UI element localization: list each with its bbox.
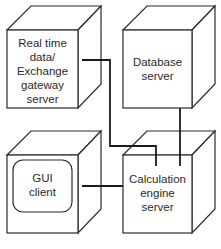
label-line: Calculation — [123, 172, 192, 186]
node-database-label: Database server — [123, 55, 192, 83]
label-line: gateway — [7, 78, 78, 92]
label-line: server — [123, 69, 192, 83]
label-line: Real time — [7, 36, 78, 50]
label-line: client — [7, 185, 78, 199]
label-line: engine — [123, 186, 192, 200]
label-line: data/ — [7, 50, 78, 64]
node-realtime-label: Real time data/ Exchange gateway server — [7, 36, 78, 106]
label-line: GUI — [7, 171, 78, 185]
label-line: server — [7, 92, 78, 106]
node-calc-label: Calculation engine server — [123, 172, 192, 214]
node-gui-label: GUI client — [7, 171, 78, 199]
label-line: Exchange — [7, 64, 78, 78]
label-line: server — [123, 200, 192, 214]
label-line: Database — [123, 55, 192, 69]
